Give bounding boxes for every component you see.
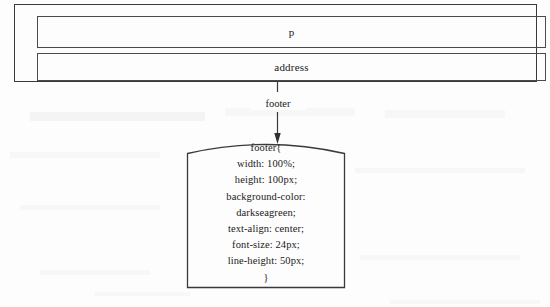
diagram-canvas: p address footer footer{ width: 100%; he…	[0, 0, 550, 307]
css-rule-line: footer{	[185, 140, 347, 156]
scan-artefact	[355, 168, 525, 173]
element-container: p address	[14, 4, 537, 82]
css-rule-box[interactable]: footer{ width: 100%; height: 100px; back…	[185, 137, 347, 290]
scan-artefact	[20, 205, 160, 210]
element-box-address[interactable]: address	[37, 53, 546, 81]
scan-artefact	[385, 110, 505, 118]
scan-artefact	[30, 112, 205, 121]
css-rule-line: darkseagreen;	[185, 205, 347, 221]
css-rule-line: line-height: 50px;	[185, 253, 347, 269]
scan-artefact	[390, 300, 540, 304]
scan-artefact	[10, 152, 160, 158]
css-rule-line: width: 100%;	[185, 156, 347, 172]
css-rule-line: font-size: 24px;	[185, 237, 347, 253]
css-rule-line: }	[185, 270, 347, 286]
element-box-p[interactable]: p	[37, 16, 546, 48]
css-rule-text: footer{ width: 100%; height: 100px; back…	[185, 137, 347, 286]
css-rule-line: height: 100px;	[185, 172, 347, 188]
element-box-label: p	[289, 27, 295, 38]
connector-label: footer	[250, 98, 306, 110]
scan-artefact	[95, 292, 190, 296]
scan-artefact	[40, 270, 150, 275]
scan-artefact	[360, 255, 520, 260]
element-box-label: address	[274, 62, 308, 73]
css-rule-line: text-align: center;	[185, 221, 347, 237]
css-rule-line: background-color:	[185, 189, 347, 205]
